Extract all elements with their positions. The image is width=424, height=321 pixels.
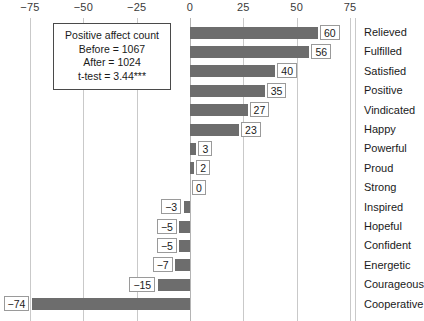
bar-row[interactable]: 3 bbox=[0, 139, 355, 158]
axis-separator-line bbox=[355, 18, 356, 321]
category-label: Satisfied bbox=[364, 62, 406, 81]
bar-value-label: 27 bbox=[250, 102, 270, 117]
bar[interactable] bbox=[175, 259, 190, 271]
category-label: Proud bbox=[364, 159, 393, 178]
annotation-line-2: Before = 1067 bbox=[58, 43, 166, 57]
bar-value-label: 2 bbox=[196, 160, 210, 175]
bar-row[interactable]: −5 bbox=[0, 217, 355, 236]
bar[interactable] bbox=[190, 46, 309, 58]
bar[interactable] bbox=[190, 162, 194, 174]
bar-row[interactable]: 27 bbox=[0, 101, 355, 120]
bar-value-label: 3 bbox=[198, 141, 212, 156]
category-label: Strong bbox=[364, 178, 396, 197]
bar-row[interactable]: 2 bbox=[0, 159, 355, 178]
category-label: Positive bbox=[364, 81, 403, 100]
bar[interactable] bbox=[179, 240, 190, 252]
x-tick-label: 0 bbox=[187, 1, 193, 13]
bar[interactable] bbox=[190, 27, 318, 39]
category-label: Cooperative bbox=[364, 295, 423, 314]
annotation-line-3: After = 1024 bbox=[58, 56, 166, 70]
x-tick-label: 25 bbox=[237, 1, 250, 13]
category-label: Vindicated bbox=[364, 101, 415, 120]
bar-value-label: 0 bbox=[192, 180, 206, 195]
bar-value-label: −74 bbox=[4, 296, 30, 311]
bar-value-label: −5 bbox=[157, 238, 177, 253]
category-label: Energetic bbox=[364, 256, 410, 275]
bar-value-label: 56 bbox=[311, 44, 331, 59]
x-axis-tick-labels: −75−50−250255075 bbox=[0, 0, 355, 18]
bar-value-label: 40 bbox=[277, 63, 297, 78]
bar-value-label: 60 bbox=[320, 25, 340, 40]
category-label: Confident bbox=[364, 236, 411, 255]
annotation-line-1: Positive affect count bbox=[58, 29, 166, 43]
category-label: Inspired bbox=[364, 198, 403, 217]
bar-value-label: 35 bbox=[267, 83, 287, 98]
category-label: Relieved bbox=[364, 23, 407, 42]
x-tick-label: −25 bbox=[127, 1, 146, 13]
category-label: Happy bbox=[364, 120, 396, 139]
bar-value-label: −5 bbox=[157, 219, 177, 234]
bar[interactable] bbox=[190, 104, 248, 116]
annotation-box: Positive affect count Before = 1067 Afte… bbox=[53, 23, 171, 90]
annotation-line-4: t-test = 3.44*** bbox=[58, 70, 166, 84]
bar-value-label: 23 bbox=[241, 122, 261, 137]
x-tick-label: 75 bbox=[344, 1, 357, 13]
bar[interactable] bbox=[190, 124, 239, 136]
bar-row[interactable]: −7 bbox=[0, 256, 355, 275]
bar[interactable] bbox=[190, 85, 265, 97]
bar[interactable] bbox=[190, 143, 196, 155]
category-labels: RelievedFulfilledSatisfiedPositiveVindic… bbox=[364, 18, 422, 321]
bar[interactable] bbox=[32, 298, 190, 310]
category-label: Hopeful bbox=[364, 217, 402, 236]
bar-row[interactable]: 0 bbox=[0, 178, 355, 197]
x-tick-label: −75 bbox=[20, 1, 39, 13]
bar[interactable] bbox=[179, 221, 190, 233]
bar[interactable] bbox=[184, 201, 190, 213]
bar-row[interactable]: −15 bbox=[0, 275, 355, 294]
bar-value-label: −7 bbox=[153, 257, 173, 272]
category-label: Fulfilled bbox=[364, 42, 402, 61]
category-label: Courageous bbox=[364, 275, 424, 294]
bar-value-label: −3 bbox=[161, 199, 181, 214]
bar-row[interactable]: 23 bbox=[0, 120, 355, 139]
bar[interactable] bbox=[190, 65, 275, 77]
bar[interactable] bbox=[158, 279, 190, 291]
bar-row[interactable]: −3 bbox=[0, 198, 355, 217]
category-label: Powerful bbox=[364, 139, 407, 158]
bar-value-label: −15 bbox=[129, 277, 155, 292]
bar-row[interactable]: −74 bbox=[0, 295, 355, 314]
x-tick-label: −50 bbox=[74, 1, 93, 13]
bar-row[interactable]: −5 bbox=[0, 236, 355, 255]
x-tick-label: 50 bbox=[290, 1, 303, 13]
